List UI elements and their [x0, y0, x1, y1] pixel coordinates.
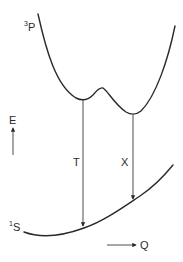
ground-state-curve — [24, 165, 173, 235]
ground-state-label: S — [13, 221, 20, 233]
potential-energy-diagram: 3 P 1 S T X E Q — [0, 0, 183, 262]
upper-state-label: P — [28, 21, 35, 33]
coordinate-axis-label: Q — [140, 239, 149, 251]
transition-x-label: X — [121, 156, 129, 168]
energy-axis-label: E — [9, 114, 16, 126]
upper-state-curve — [38, 14, 175, 114]
transition-t-label: T — [73, 156, 80, 168]
